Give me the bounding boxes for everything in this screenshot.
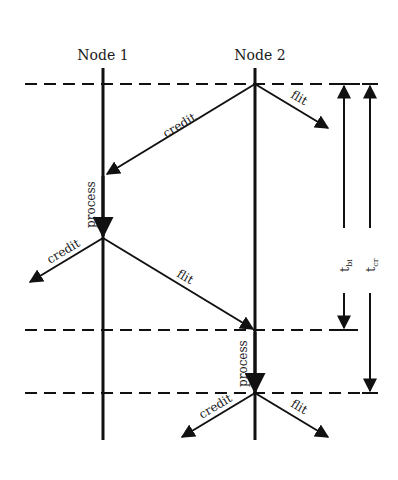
credit-label-1: credit [160, 110, 198, 141]
tcr-interval: tcr [362, 84, 380, 393]
time-markers [25, 84, 378, 393]
flit-arrow-1 [255, 84, 328, 128]
tcr-label: tcr [363, 258, 380, 272]
tbi-label: tbi [337, 259, 354, 272]
node2-title: Node 2 [234, 47, 285, 63]
credit-flit-timing-diagram: Node 1 Node 2 credit flit process credit… [0, 0, 398, 480]
tbi-interval: tbi [337, 84, 354, 330]
flit-arrow-3 [255, 393, 328, 437]
process-label-1: process [84, 181, 98, 228]
process-label-2: process [236, 340, 250, 387]
flit-arrow-2 [103, 238, 253, 329]
node1-title: Node 1 [77, 47, 128, 63]
